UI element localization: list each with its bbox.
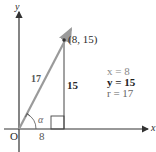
x-axis-label: x <box>151 123 155 133</box>
y-axis-label: y <box>15 2 19 12</box>
right-angle-marker <box>51 116 64 129</box>
values-panel: x = 8 y = 15 r = 17 <box>107 66 135 99</box>
angle-label: α <box>38 115 43 125</box>
opposite-side-label: 15 <box>67 80 78 91</box>
vector-length-label: 17 <box>31 74 41 84</box>
point-marker <box>62 38 66 42</box>
angle-arc <box>27 114 36 129</box>
r-value: r = 17 <box>107 88 135 99</box>
origin-label: O <box>10 131 18 142</box>
point-label: (8, 15) <box>68 34 97 45</box>
adjacent-side-label: 8 <box>39 131 45 142</box>
